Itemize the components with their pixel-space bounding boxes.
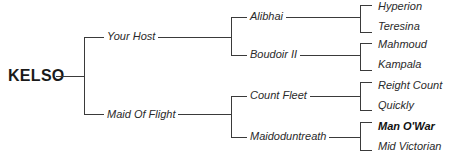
ancestor-name: Kampala [378,58,421,71]
connector-line [231,17,232,56]
ancestor-name: Quickly [378,99,414,112]
dam-sire-name: Count Fleet [247,89,310,102]
ancestor-name: Hyperion [378,0,422,13]
connector-line [231,96,232,137]
sire-sire-name: Alibhai [247,10,286,23]
connector-line [360,150,372,151]
connector-line [360,5,361,33]
ancestor-name-highlighted: Man O'War [378,120,435,133]
connector-line [360,110,372,111]
connector-line [360,122,361,151]
sire-name: Your Host [104,30,158,43]
connector-line [360,82,372,83]
connector-line [360,43,372,44]
pedigree-chart: KELSO Your Host Maid Of Flight Alibhai B… [0,0,452,153]
connector-line [360,70,372,71]
ancestor-name: Mahmoud [378,38,427,51]
dam-dam-name: Maidoduntreath [247,130,329,143]
ancestor-name: Teresina [378,20,420,33]
connector-line [360,43,361,71]
connector-line [360,122,372,123]
ancestor-name: Mid Victorian [378,140,441,153]
connector-line [360,32,372,33]
ancestor-name: Reight Count [378,79,442,92]
connector-line [56,76,84,77]
sire-dam-name: Boudoir II [247,48,300,61]
dam-name: Maid Of Flight [104,108,178,121]
connector-line [84,37,85,115]
connector-line [360,82,361,111]
connector-line [360,5,372,6]
